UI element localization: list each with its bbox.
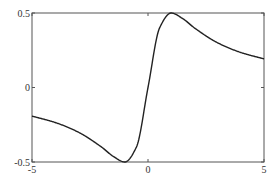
x-tick-label: 0 bbox=[146, 164, 151, 175]
line-chart: -505-0.500.5 bbox=[0, 0, 280, 183]
data-line bbox=[32, 13, 264, 162]
x-tick-label: 5 bbox=[262, 164, 267, 175]
tick-labels: -505-0.500.5 bbox=[14, 8, 266, 176]
y-tick-label: 0 bbox=[25, 82, 30, 93]
y-tick-label: 0.5 bbox=[18, 8, 31, 19]
y-tick-label: -0.5 bbox=[14, 157, 30, 168]
